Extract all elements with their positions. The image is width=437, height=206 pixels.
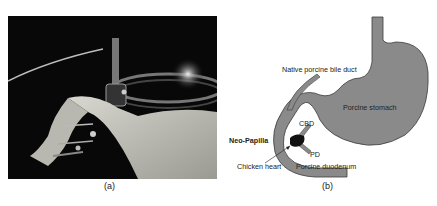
anatomy-diagram xyxy=(220,0,437,206)
label-cbd: CBD xyxy=(299,119,314,128)
label-pd: PD xyxy=(310,150,320,159)
label-neo-papilla: Neo-Papilla xyxy=(229,136,268,145)
cropped-caption-line xyxy=(0,196,437,206)
endoscope-photo xyxy=(8,16,217,179)
label-bile-duct: Native porcine bile duct xyxy=(282,65,357,74)
label-chicken-heart: Chicken heart xyxy=(237,162,281,171)
panel-b-caption: (b) xyxy=(322,181,333,191)
panel-a-caption: (a) xyxy=(104,181,115,191)
photo-panel-a xyxy=(8,16,217,179)
label-duodenum: Porcine duodenum xyxy=(296,162,356,171)
label-stomach: Porcine stomach xyxy=(343,103,397,112)
